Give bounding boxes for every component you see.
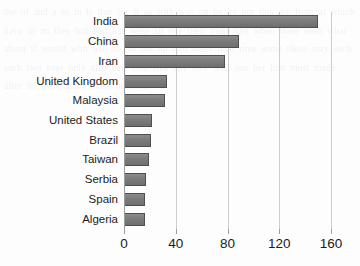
bar-row[interactable] xyxy=(124,173,146,186)
category-label: Malaysia xyxy=(0,94,118,107)
category-axis-labels: IndiaChinaIranUnited KingdomMalaysiaUnit… xyxy=(0,12,118,229)
tick-mark xyxy=(124,229,125,234)
tick-label: 120 xyxy=(268,236,291,251)
bar-row[interactable] xyxy=(124,94,165,107)
bar[interactable] xyxy=(124,15,318,28)
value-axis-tick-marks xyxy=(124,229,331,234)
bar[interactable] xyxy=(124,173,146,186)
tick-label: 80 xyxy=(220,236,235,251)
bar[interactable] xyxy=(124,134,151,147)
bar[interactable] xyxy=(124,213,145,226)
category-label: Serbia xyxy=(0,173,118,186)
category-label: China xyxy=(0,35,118,48)
bar-chart: the of and a to in is that for it as wit… xyxy=(0,0,360,266)
bar-row[interactable] xyxy=(124,134,151,147)
category-label: Taiwan xyxy=(0,153,118,166)
plot-area xyxy=(124,12,331,229)
value-axis-tick-labels: 04080120160 xyxy=(124,236,331,256)
bar-row[interactable] xyxy=(124,35,239,48)
category-label: United States xyxy=(0,114,118,127)
category-label: United Kingdom xyxy=(0,75,118,88)
bar-series xyxy=(124,12,331,229)
bar-row[interactable] xyxy=(124,75,167,88)
bar-row[interactable] xyxy=(124,153,149,166)
bar-row[interactable] xyxy=(124,193,145,206)
tick-label: 40 xyxy=(168,236,183,251)
tick-mark xyxy=(279,229,280,234)
bar[interactable] xyxy=(124,193,145,206)
tick-label: 0 xyxy=(120,236,128,251)
gridline xyxy=(331,12,332,229)
tick-mark xyxy=(228,229,229,234)
tick-mark xyxy=(176,229,177,234)
bar-row[interactable] xyxy=(124,114,152,127)
bar-row[interactable] xyxy=(124,213,145,226)
bar[interactable] xyxy=(124,55,225,68)
tick-mark xyxy=(331,229,332,234)
bar[interactable] xyxy=(124,153,149,166)
category-label: Spain xyxy=(0,193,118,206)
category-label: Iran xyxy=(0,55,118,68)
bar[interactable] xyxy=(124,35,239,48)
bar[interactable] xyxy=(124,75,167,88)
bar[interactable] xyxy=(124,114,152,127)
category-label: Brazil xyxy=(0,134,118,147)
bar[interactable] xyxy=(124,94,165,107)
bar-row[interactable] xyxy=(124,15,318,28)
bar-row[interactable] xyxy=(124,55,225,68)
tick-label: 160 xyxy=(320,236,343,251)
category-label: India xyxy=(0,15,118,28)
value-axis-line xyxy=(124,12,125,229)
category-label: Algeria xyxy=(0,213,118,226)
